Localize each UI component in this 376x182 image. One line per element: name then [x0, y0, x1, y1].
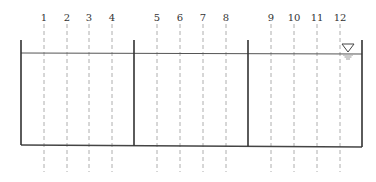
tank-structure	[21, 40, 362, 147]
section-label-1: 1	[41, 12, 47, 23]
section-labels: 123456789101112	[41, 12, 347, 23]
section-label-8: 8	[223, 12, 229, 23]
triangle-icon	[342, 44, 354, 52]
section-label-2: 2	[64, 12, 70, 23]
section-label-12: 12	[334, 12, 347, 23]
tank-floor-line	[21, 145, 362, 147]
section-label-3: 3	[86, 12, 92, 23]
section-label-5: 5	[154, 12, 160, 23]
section-label-7: 7	[200, 12, 206, 23]
section-dash-lines	[44, 24, 340, 172]
section-label-6: 6	[177, 12, 183, 23]
section-label-10: 10	[288, 12, 301, 23]
section-label-9: 9	[268, 12, 274, 23]
tank-diagram: 123456789101112	[0, 0, 376, 182]
section-label-11: 11	[311, 12, 324, 23]
water-surface-line	[21, 53, 362, 54]
tank-walls	[21, 40, 362, 147]
section-label-4: 4	[109, 12, 115, 23]
water-level-triangle-icon	[342, 44, 354, 59]
